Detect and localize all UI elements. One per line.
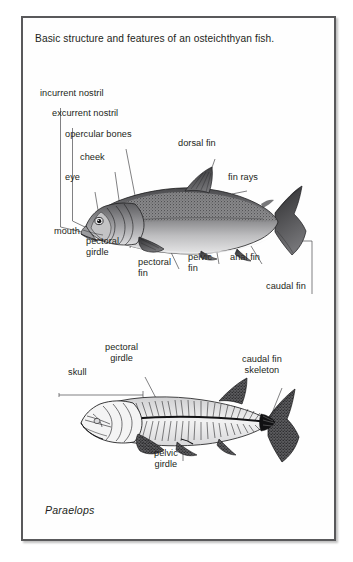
label-opercular-bones: opercular bones [65, 129, 132, 140]
illustration-plate: Basic structure and features of an ostei… [21, 16, 336, 541]
label-pectoral-fin: pectoral fin [138, 257, 171, 278]
label-fin-rays: fin rays [228, 172, 258, 183]
plate-caption: Basic structure and features of an ostei… [35, 32, 325, 45]
label-pectoral-girdle-2: pectoral girdle [105, 342, 138, 363]
label-anal-fin: anal fin [230, 252, 260, 263]
species-name: Paraelops [45, 504, 95, 516]
figure-plate-page: Basic structure and features of an ostei… [0, 0, 353, 562]
label-incurrent-nostril: incurrent nostril [40, 88, 104, 99]
label-eye: eye [65, 172, 80, 183]
label-dorsal-fin: dorsal fin [178, 138, 216, 149]
label-mouth: mouth [54, 226, 80, 237]
label-cheek: cheek [80, 152, 105, 163]
label-skull: skull [68, 367, 87, 378]
label-pelvic-fin: pelvic fin [188, 252, 212, 273]
label-pectoral-girdle: pectoral girdle [86, 236, 119, 257]
label-excurrent-nostril: excurrent nostril [52, 108, 118, 119]
label-pelvic-girdle: pelvic girdle [154, 448, 178, 469]
label-caudal-fin: caudal fin [266, 281, 306, 292]
label-caudal-fin-skeleton: caudal fin skeleton [242, 354, 282, 375]
